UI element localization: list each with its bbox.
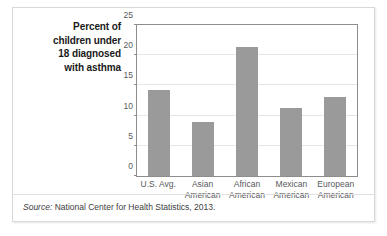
bar-slot xyxy=(225,25,269,176)
plot-area: 0510152025 xyxy=(136,24,358,177)
y-tick-label: 10 xyxy=(124,101,133,111)
x-axis-label-line: U.S. Avg. xyxy=(136,179,180,190)
bar[interactable] xyxy=(148,90,170,176)
chart-region: Percent of children under 18 diagnosed w… xyxy=(13,8,374,194)
y-tick-label: 5 xyxy=(128,131,133,141)
title-line-3: 18 diagnosed xyxy=(19,47,121,61)
x-axis-label: EuropeanAmerican xyxy=(314,179,358,200)
figure-card: Percent of children under 18 diagnosed w… xyxy=(12,7,375,222)
bar-slot xyxy=(181,25,225,176)
x-axis-label-line: Mexican xyxy=(269,179,313,190)
x-axis-label-line: Asian xyxy=(180,179,224,190)
bars-layer xyxy=(137,25,357,176)
y-tick-label: 0 xyxy=(128,161,133,171)
bar-slot xyxy=(313,25,357,176)
x-axis-label: AsianAmerican xyxy=(180,179,224,200)
x-axis-label-line: African xyxy=(225,179,269,190)
x-axis-label-line: European xyxy=(314,179,358,190)
bar[interactable] xyxy=(192,122,214,176)
chart-title: Percent of children under 18 diagnosed w… xyxy=(19,20,121,74)
bar[interactable] xyxy=(236,47,258,176)
bar[interactable] xyxy=(324,97,346,176)
y-tick-label: 20 xyxy=(124,40,133,50)
source-label: Source: xyxy=(23,202,52,212)
x-axis-label: U.S. Avg. xyxy=(136,179,180,190)
title-line-2: children under xyxy=(19,34,121,48)
title-line-1: Percent of xyxy=(19,20,121,34)
source-text: National Center for Health Statistics, 2… xyxy=(52,202,215,212)
source-divider xyxy=(13,194,374,195)
x-axis-label: MexicanAmerican xyxy=(269,179,313,200)
bar-slot xyxy=(137,25,181,176)
x-axis-label: AfricanAmerican xyxy=(225,179,269,200)
source-note: Source: National Center for Health Stati… xyxy=(23,202,215,212)
y-tick-label: 25 xyxy=(124,10,133,20)
bar[interactable] xyxy=(280,108,302,176)
bar-slot xyxy=(269,25,313,176)
y-tick-label: 15 xyxy=(124,70,133,80)
title-line-4: with asthma xyxy=(19,61,121,75)
